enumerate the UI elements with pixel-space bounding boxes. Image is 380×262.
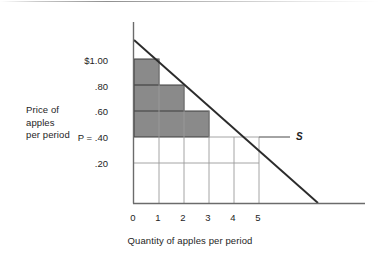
surplus-step-3 [184, 111, 209, 137]
consumer-surplus-shading [134, 59, 209, 137]
plot-canvas [0, 0, 380, 262]
surplus-step-1 [134, 59, 159, 137]
horizontal-gridlines [134, 137, 290, 163]
economics-figure: Price of apples per period Quantity of a… [0, 0, 380, 262]
